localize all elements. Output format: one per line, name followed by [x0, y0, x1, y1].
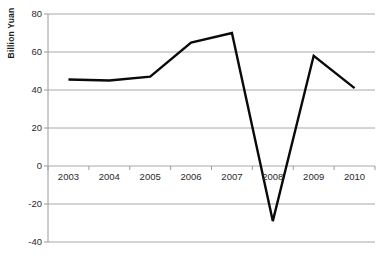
y-tick-label: 20 — [16, 123, 42, 133]
y-tick-label: -40 — [16, 237, 42, 247]
x-tick-label: 2009 — [293, 172, 335, 182]
y-tick-label: 60 — [16, 47, 42, 57]
x-tick-label: 2003 — [47, 172, 89, 182]
line-chart: Billion Yuan 806040200-20-40 20032004200… — [0, 0, 381, 257]
x-tick-label: 2008 — [252, 172, 294, 182]
y-tick-label: -20 — [16, 199, 42, 209]
y-tick-label: 0 — [16, 161, 42, 171]
y-tick-label: 40 — [16, 85, 42, 95]
y-tick-label: 80 — [16, 9, 42, 19]
y-axis-tick-marks — [44, 14, 48, 242]
x-tick-label: 2010 — [334, 172, 376, 182]
x-tick-label: 2004 — [88, 172, 130, 182]
x-tick-label: 2007 — [211, 172, 253, 182]
gridlines — [48, 14, 375, 242]
plot-area — [0, 0, 381, 257]
x-axis-tick-marks — [48, 166, 375, 170]
data-series-line — [68, 33, 354, 221]
x-tick-label: 2005 — [129, 172, 171, 182]
x-tick-label: 2006 — [170, 172, 212, 182]
